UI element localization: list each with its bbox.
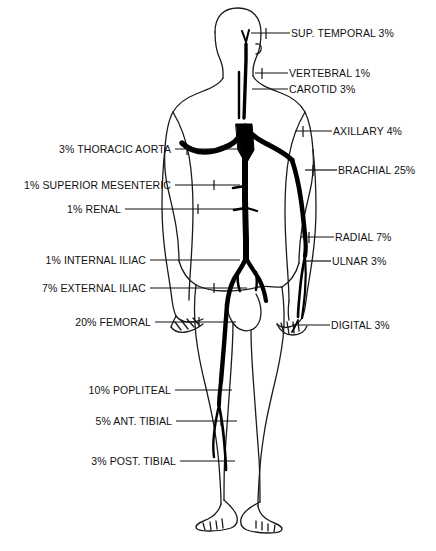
anterior-tibial-artery [219, 405, 226, 470]
label-ant-tibial: 5% ANT. TIBIAL [96, 416, 173, 427]
renal-artery-right [247, 208, 257, 211]
label-internal-iliac: 1% INTERNAL ILIAC [45, 255, 146, 266]
label-carotid: CAROTID 3% [289, 84, 355, 95]
label-post-tibial: 3% POST. TIBIAL [91, 456, 176, 467]
label-radial: RADIAL 7% [335, 232, 392, 243]
label-sup-temporal: SUP. TEMPORAL 3% [291, 28, 394, 39]
caption-fragment [2, 541, 202, 551]
label-vertebral: VERTEBRAL 1% [289, 68, 370, 79]
popliteal-artery [219, 381, 221, 405]
internal-iliac-right [256, 272, 257, 290]
label-digital: DIGITAL 3% [331, 320, 390, 331]
brachial-artery [305, 236, 306, 256]
label-ulnar: ULNAR 3% [332, 256, 386, 267]
label-popliteal: 10% POPLITEAL [89, 385, 171, 396]
label-femoral: 20% FEMORAL [75, 317, 151, 328]
label-renal: 1% RENAL [67, 204, 121, 215]
label-thoracic-aorta: 3% THORACIC AORTA [59, 144, 171, 155]
label-axillary: AXILLARY 4% [333, 126, 402, 137]
carotid-artery [244, 44, 246, 118]
label-superior-mesenteric: 1% SUPERIOR MESENTERIC [24, 180, 171, 191]
arterial-distribution-figure [0, 0, 436, 551]
femoral-artery [221, 305, 227, 381]
posterior-tibial-artery [213, 405, 219, 457]
label-brachial: BRACHIAL 25% [338, 165, 415, 176]
superficial-temporal-artery [242, 30, 249, 42]
label-external-iliac: 7% EXTERNAL ILIAC [42, 283, 146, 294]
axillary-artery [292, 160, 305, 236]
